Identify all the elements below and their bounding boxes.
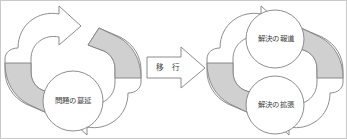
transition-arrow-shape [147,47,205,88]
node-circle-solution-expansion [246,76,304,134]
diagram-graphics [1,1,347,139]
node-circle-solution-report [246,10,304,68]
diagram-canvas: 問題の蔓延 移 行 解決の報道 解決の拡張 [0,0,347,139]
node-circle-problem-spread [43,71,103,131]
transition-arrow-icon [147,47,205,88]
arrow-shaded-lobe [88,28,141,78]
